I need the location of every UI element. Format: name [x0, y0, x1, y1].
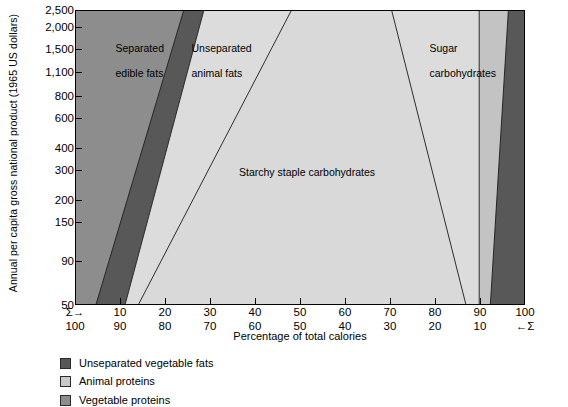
x-tick-mark — [480, 298, 481, 305]
x-tick-label-top: Σ→ — [66, 306, 85, 318]
y-tick-label: 200 — [55, 195, 74, 206]
annotation-line-2: edible fats — [116, 67, 164, 79]
x-tick-mark — [300, 298, 301, 305]
plot-area: Separated edible fats Unseparated animal… — [75, 10, 525, 305]
y-tick-mark — [76, 118, 82, 119]
x-tick-label-top: 20 — [159, 306, 172, 318]
x-tick-mark — [210, 298, 211, 305]
chart-page: Annual per capita gross national product… — [0, 0, 568, 407]
y-tick-mark — [76, 96, 82, 97]
y-tick-label: 800 — [55, 90, 74, 101]
annotation-separated-edible-fats: Separated edible fats — [98, 29, 164, 92]
y-tick-label: 2,500 — [45, 5, 74, 16]
annotation-line-2: carbohydrates — [430, 67, 497, 79]
annotation-line-1: Unseparated — [192, 42, 252, 54]
legend-swatch — [60, 376, 71, 387]
y-tick-label: 600 — [55, 112, 74, 123]
y-tick-mark — [76, 148, 82, 149]
legend-label: Animal proteins — [79, 376, 155, 387]
legend-item: Unseparated vegetable fats — [60, 355, 214, 371]
x-tick-mark — [165, 298, 166, 305]
y-tick-mark — [76, 222, 82, 223]
x-tick-label-group: 100←Σ — [495, 306, 555, 333]
y-tick-label: 300 — [55, 164, 74, 175]
annotation-line-2: animal fats — [192, 67, 243, 79]
x-tick-mark — [435, 298, 436, 305]
x-tick-label-top: 50 — [294, 306, 307, 318]
legend-label: Vegetable proteins — [79, 395, 170, 406]
y-tick-mark — [76, 27, 82, 28]
x-tick-mark — [255, 298, 256, 305]
legend-swatch — [60, 358, 71, 369]
y-tick-label: 1,500 — [45, 43, 74, 54]
x-axis-title: Percentage of total calories — [75, 330, 525, 342]
legend: Unseparated vegetable fatsAnimal protein… — [60, 355, 214, 407]
annotation-line-1: Separated — [116, 42, 164, 54]
y-tick-mark — [76, 261, 82, 262]
x-tick-label-top: 10 — [114, 306, 127, 318]
legend-label: Unseparated vegetable fats — [79, 358, 214, 369]
x-tick-label-top: 80 — [429, 306, 442, 318]
x-tick-mark — [120, 298, 121, 305]
x-tick-label-top: 60 — [339, 306, 352, 318]
y-tick-mark — [76, 49, 82, 50]
x-tick-label-top: 100 — [515, 306, 534, 318]
y-tick-mark — [76, 200, 82, 201]
x-tick-label-top: 70 — [384, 306, 397, 318]
legend-item: Vegetable proteins — [60, 392, 214, 407]
y-tick-label: 400 — [55, 143, 74, 154]
x-tick-label-top: 90 — [474, 306, 487, 318]
x-tick-mark — [345, 298, 346, 305]
y-axis-tick-labels: 50901502003004006008001,1001,5002,0002,5… — [18, 0, 74, 407]
y-tick-label: 150 — [55, 217, 74, 228]
y-tick-label: 1,100 — [45, 66, 74, 77]
y-tick-mark — [76, 72, 82, 73]
legend-item: Animal proteins — [60, 374, 214, 390]
x-tick-label-top: 30 — [204, 306, 217, 318]
legend-swatch — [60, 395, 71, 406]
x-tick-label-top: 40 — [249, 306, 262, 318]
annotation-sugar-carbohydrates: Sugar carbohydrates — [412, 29, 496, 92]
x-tick-mark — [390, 298, 391, 305]
annotation-starchy-staple-carbohydrates: Starchy staple carbohydrates — [239, 166, 375, 179]
annotation-unseparated-animal-fats: Unseparated animal fats — [174, 29, 252, 92]
y-tick-label: 90 — [61, 255, 74, 266]
y-tick-mark — [76, 170, 82, 171]
y-tick-label: 2,000 — [45, 21, 74, 32]
annotation-line-1: Sugar — [430, 42, 458, 54]
